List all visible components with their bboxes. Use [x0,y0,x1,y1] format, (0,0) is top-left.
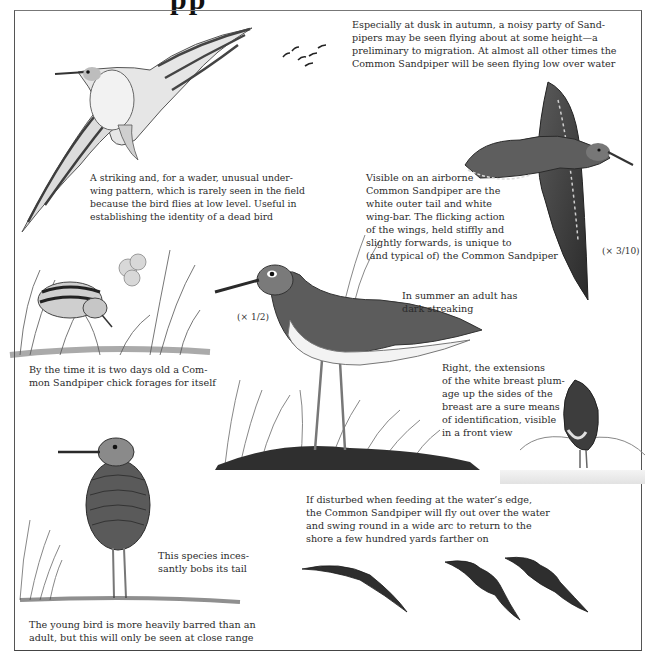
caption-line: Right, the extensions [442,361,565,374]
caption-young-bird: The young bird is more heavily barred th… [29,618,256,644]
caption-line: wing pattern, which is rarely seen in th… [90,184,305,197]
caption-line: Visible on an airborne [366,171,558,184]
distant-flock-illustration [283,45,326,66]
caption-line: establishing the identity of a dead bird [90,210,305,223]
caption-line: adult, but this will only be seen at clo… [29,631,256,644]
illustrations [0,0,658,663]
caption-chick: By the time it is two days old a Com- mo… [29,363,216,389]
caption-airborne: Visible on an airborne Common Sandpiper … [366,171,558,262]
flight-sequence-illustration [302,557,588,620]
young-bird-illustration [20,438,240,602]
caption-line: in a front view [442,426,565,439]
caption-line: preliminary to migration. At almost all … [352,44,617,57]
caption-line: slightly forwards, is unique to [366,236,558,249]
caption-line: If disturbed when feeding at the water’s… [306,493,550,506]
scale-standing-adult: (× 1/2) [237,312,269,322]
caption-line: Common Sandpiper are the [366,184,558,197]
caption-underwing: A striking and, for a wader, unusual und… [90,171,305,223]
caption-line: of identification, visible [442,413,565,426]
caption-line: dark streaking [402,302,517,315]
caption-line: A striking and, for a wader, unusual und… [90,171,305,184]
caption-line: santly bobs its tail [158,562,249,575]
caption-line: Especially at dusk in autumn, a noisy pa… [352,18,617,31]
caption-line: By the time it is two days old a Com- [29,363,216,376]
caption-bobs-tail: This species inces- santly bobs its tail [158,549,249,575]
caption-line: The young bird is more heavily barred th… [29,618,256,631]
caption-line: of the white breast plum- [442,374,565,387]
chick-illustration [10,250,210,355]
caption-line: In summer an adult has [402,289,517,302]
caption-front-view: Right, the extensions of the white breas… [442,361,565,439]
caption-line: age up the sides of the [442,387,565,400]
caption-line: and swing round in a wide arc to return … [306,519,550,532]
caption-line: Common Sandpiper will be seen flying low… [352,57,617,70]
caption-disturbed: If disturbed when feeding at the water’s… [306,493,550,545]
caption-line: mon Sandpiper chick forages for itself [29,376,216,389]
caption-line: shore a few hundred yards farther on [306,532,550,545]
caption-line: white outer tail and white [366,197,558,210]
caption-line: pipers may be seen flying about at some … [352,31,617,44]
caption-line: of the wings, held stiffly and [366,223,558,236]
caption-line: wing-bar. The flicking action [366,210,558,223]
caption-line: because the bird flies at low level. Use… [90,197,305,210]
caption-line: This species inces- [158,549,249,562]
caption-migration: Especially at dusk in autumn, a noisy pa… [352,18,617,70]
caption-line: breast are a sure means [442,400,565,413]
caption-line: (and typical of) the Common Sandpiper [366,249,558,262]
caption-line: the Common Sandpiper will fly out over t… [306,506,550,519]
scale-flying-bird: (× 3/10) [602,246,640,256]
caption-summer-adult: In summer an adult has dark streaking [402,289,517,315]
